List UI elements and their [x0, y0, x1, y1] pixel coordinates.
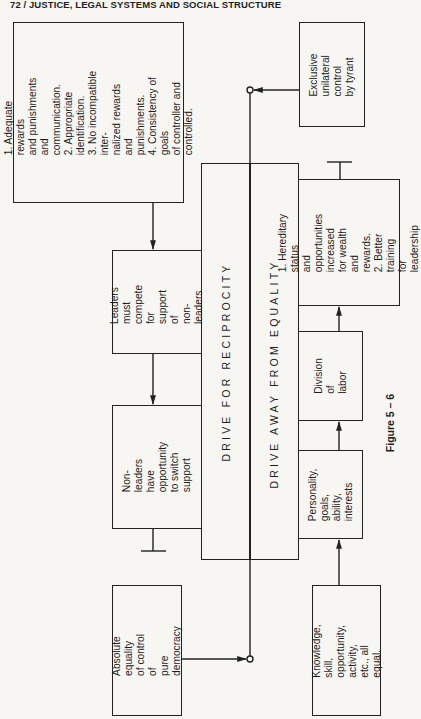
division-of-labor-box: Division of labor: [298, 331, 363, 421]
knowledge-box: Knowledge, skill, opportunity, activity,…: [312, 585, 381, 716]
drive-away-text: DRIVE AWAY FROM EQUALITY: [268, 259, 280, 488]
top-node-circle: [247, 87, 253, 93]
nonleaders-box: Non-leaders have opportunity to switch s…: [112, 405, 202, 529]
tyrant-box: Exclusive unilateral control by tyrant: [299, 22, 365, 127]
leaders-box: Leaders must compete for support of non-…: [112, 250, 202, 354]
absolute-equality-text: Absolute equality of control of pure dem…: [111, 626, 183, 676]
tyrant-text: Exclusive unilateral control by tyrant: [308, 53, 356, 96]
hereditary-box: 1. Hereditary status and opportunities i…: [298, 179, 400, 306]
figure-label: Figure 5 – 6: [384, 394, 396, 452]
drive-reciprocity-text: DRIVE FOR RECIPROCITY: [220, 262, 232, 461]
bottom-node-circle: [247, 656, 253, 662]
personality-box: Personality, goals, ability, interests: [298, 450, 363, 539]
leaders-text: Leaders must compete for support of non-…: [109, 280, 205, 324]
personality-text: Personality, goals, ability, interests: [307, 468, 355, 520]
drive-reciprocity-box: DRIVE FOR RECIPROCITY: [201, 163, 251, 560]
nonleaders-text: Non-leaders have opportunity to switch s…: [121, 442, 193, 492]
knowledge-text: Knowledge, skill, opportunity, activity,…: [311, 624, 383, 677]
page-header: 72 / JUSTICE, LEGAL SYSTEMS AND SOCIAL S…: [10, 0, 281, 10]
conditions-text: 1. Adequate rewards and punishments and …: [3, 70, 195, 155]
conditions-box: 1. Adequate rewards and punishments and …: [13, 22, 184, 203]
hereditary-text: 1. Hereditary status and opportunities i…: [277, 213, 421, 271]
absolute-equality-box: Absolute equality of control of pure dem…: [112, 585, 182, 716]
division-of-labor-text: Division of labor: [313, 358, 349, 394]
